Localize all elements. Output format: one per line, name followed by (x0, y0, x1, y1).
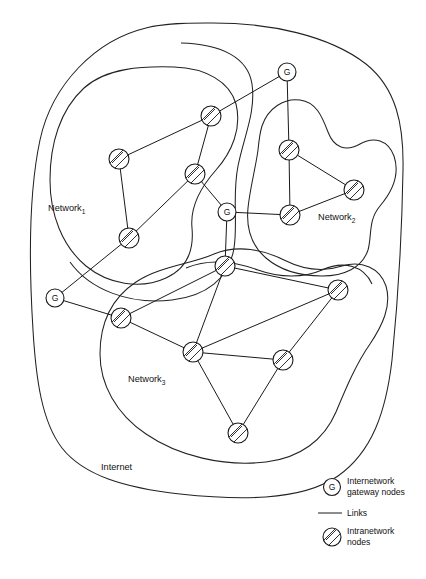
legend-gateway-symbol: G (324, 479, 341, 496)
network2-label: Network2 (318, 212, 356, 224)
link (211, 72, 287, 116)
link (287, 72, 289, 150)
network-diagram-svg: G G G Network1 Network2 Network3 Interne… (0, 0, 426, 579)
intranetwork-node[interactable] (211, 254, 238, 280)
link (119, 159, 129, 238)
legend-gateway-glyph: G (329, 482, 336, 492)
gateway-label: G (224, 207, 231, 217)
intranetwork-node[interactable] (179, 340, 206, 366)
network2-boundary (248, 100, 396, 276)
intranetwork-node[interactable] (269, 348, 296, 374)
legend-links-label: Links (347, 508, 367, 518)
link (193, 352, 238, 433)
legend-intranetwork-line1: Intranetwork (347, 526, 395, 536)
intranetwork-node[interactable] (276, 203, 303, 229)
gateway-node-left[interactable]: G (46, 289, 64, 307)
legend-gateway-line2: gateway nodes (347, 487, 405, 497)
link (238, 360, 283, 433)
legend-intranetwork-line2: nodes (347, 537, 370, 547)
link (129, 174, 195, 238)
intranetwork-node[interactable] (224, 421, 251, 447)
legend-intranetwork-symbol (319, 525, 345, 550)
links-group (55, 72, 354, 433)
gateway-node-middle[interactable]: G (218, 203, 236, 221)
intranetwork-node[interactable] (340, 178, 367, 204)
gateway-label: G (52, 293, 59, 303)
gateway-node-top[interactable]: G (278, 63, 296, 81)
intranetwork-node[interactable] (107, 306, 134, 332)
network3-label: Network3 (128, 374, 166, 386)
link (121, 318, 193, 352)
link (283, 290, 338, 360)
gateway-label: G (284, 67, 291, 77)
intranetwork-node[interactable] (324, 278, 351, 304)
link (289, 150, 354, 190)
link (55, 238, 129, 298)
link (193, 352, 283, 360)
diagram-canvas: G G G Network1 Network2 Network3 Interne… (0, 0, 426, 579)
intranetwork-node[interactable] (105, 147, 132, 173)
intranetwork-node[interactable] (197, 104, 224, 130)
intranetwork-node[interactable] (275, 138, 302, 164)
link (119, 116, 211, 159)
legend: G Internetwork gateway nodes Links Intra… (318, 476, 405, 550)
network1-boundary (50, 67, 238, 284)
legend-gateway-line1: Internetwork (347, 476, 395, 486)
link (193, 266, 225, 352)
internet-label: Internet (101, 462, 133, 472)
link (193, 290, 338, 352)
